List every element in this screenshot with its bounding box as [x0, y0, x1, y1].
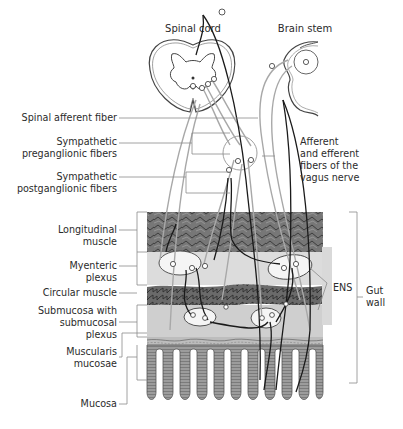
label-spinal-afferent-fiber: Spinal afferent fiber — [0, 112, 117, 124]
spinal-cord-section — [149, 40, 234, 112]
label-longitudinal-muscle: Longitudinal muscle — [0, 224, 117, 248]
label-circular-muscle: Circular muscle — [0, 287, 117, 299]
label-line: muscle — [0, 236, 117, 248]
label-line: plexus — [0, 272, 117, 284]
label-line: postganglionic fibers — [0, 183, 117, 195]
label-gut-wall: Gut wall — [366, 285, 385, 309]
label-line: ENS — [333, 282, 352, 294]
label-muscularis-mucosae: Muscularis mucosae — [0, 346, 117, 370]
gut-wall-layers — [147, 212, 323, 400]
label-ens: ENS — [333, 282, 352, 294]
label-line: vagus nerve — [300, 172, 359, 184]
ens-overlay — [322, 247, 332, 325]
label-line: Longitudinal — [0, 224, 117, 236]
label-line: plexus — [0, 329, 117, 341]
label-line: and efferent — [300, 148, 359, 160]
label-line: wall — [366, 297, 385, 309]
label-line: Sympathetic — [0, 136, 117, 148]
label-sympathetic-preganglionic: Sympathetic preganglionic fibers — [0, 136, 117, 160]
label-line: fibers of the — [300, 160, 359, 172]
label-submucosa: Submucosa with submucosal plexus — [0, 305, 117, 341]
label-line: mucosae — [0, 358, 117, 370]
label-line: Spinal afferent fiber — [0, 112, 117, 124]
brain-stem-section — [284, 42, 318, 116]
label-line: Circular muscle — [0, 287, 117, 299]
label-line: Submucosa with — [0, 305, 117, 317]
label-line: Gut — [366, 285, 385, 297]
label-mucosa: Mucosa — [0, 398, 117, 410]
label-line: Afferent — [300, 136, 359, 148]
label-line: Mucosa — [0, 398, 117, 410]
label-line: preganglionic fibers — [0, 148, 117, 160]
label-line: Sympathetic — [0, 171, 117, 183]
myenteric-ganglion-left — [159, 251, 201, 275]
label-vagus-fibers: Afferent and efferent fibers of the vagu… — [300, 136, 359, 184]
brain-stem-title: Brain stem — [278, 23, 332, 34]
label-line: Muscularis — [0, 346, 117, 358]
label-myenteric-plexus: Myenteric plexus — [0, 260, 117, 284]
label-line: Myenteric — [0, 260, 117, 272]
submucosal-ganglion-right — [251, 308, 281, 328]
label-line: submucosal — [0, 317, 117, 329]
submucosa-layer — [147, 305, 323, 337]
label-sympathetic-postganglionic: Sympathetic postganglionic fibers — [0, 171, 117, 195]
